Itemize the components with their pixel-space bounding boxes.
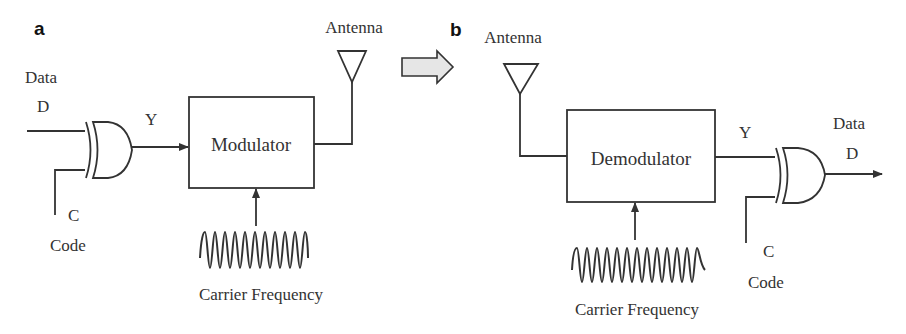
modulator-to-antenna-wire: [314, 82, 352, 144]
xor-gate-icon: [86, 122, 132, 178]
modulator-label: Modulator: [211, 134, 292, 155]
data-symbol-a: D: [37, 97, 49, 116]
sine-wave-icon: [200, 232, 308, 268]
sine-wave-icon: [572, 248, 705, 282]
antenna-label-a: Antenna: [325, 18, 383, 37]
carrier-label-b: Carrier Frequency: [575, 300, 700, 319]
demodulator-label: Demodulator: [591, 148, 692, 169]
code-label-b: Code: [748, 273, 784, 292]
spread-spectrum-diagram: a Data D Y Modulator Antenna Carrier Fre…: [0, 0, 906, 334]
antenna-label-b: Antenna: [484, 28, 542, 47]
code-input-wire-b: [746, 197, 775, 243]
xor-output-label-a: Y: [145, 110, 157, 129]
antenna-icon: [504, 64, 538, 94]
panel-label-b: b: [450, 19, 462, 40]
code-label-a: Code: [50, 236, 86, 255]
demodulator-output-label-b: Y: [739, 123, 751, 142]
data-label-a: Data: [25, 68, 58, 87]
block-arrow-right-icon: [402, 51, 453, 83]
carrier-label-a: Carrier Frequency: [199, 285, 324, 304]
antenna-to-demodulator-wire: [520, 94, 567, 156]
code-symbol-a: C: [68, 206, 79, 225]
code-symbol-b: C: [763, 242, 774, 261]
xor-gate-icon: [776, 148, 825, 203]
data-symbol-b: D: [846, 144, 858, 163]
panel-b: b Antenna Demodulator Carrier Frequency …: [450, 19, 882, 319]
data-label-b: Data: [833, 114, 866, 133]
panel-a: a Data D Y Modulator Antenna Carrier Fre…: [25, 18, 383, 304]
panel-label-a: a: [34, 18, 45, 39]
antenna-icon: [338, 51, 366, 82]
